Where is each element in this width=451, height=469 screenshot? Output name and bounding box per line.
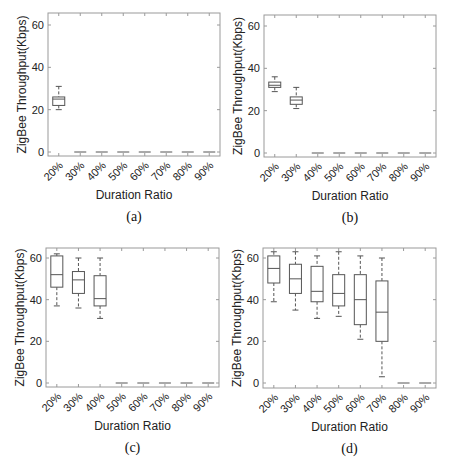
iqr-box [72, 272, 84, 294]
iqr-box [376, 281, 388, 341]
x-tick-label: 80% [386, 391, 410, 415]
y-tick-label: 60 [30, 252, 42, 264]
box-20pct [53, 86, 65, 109]
x-tick-label: 40% [300, 160, 324, 184]
x-tick-label: 20% [39, 390, 63, 414]
iqr-box [290, 97, 302, 104]
x-tick-label: 20% [41, 159, 65, 183]
y-tick-label: 0 [254, 147, 260, 159]
x-tick-label: 70% [364, 391, 388, 415]
box-70pct [376, 258, 388, 377]
x-tick-label: 90% [408, 391, 432, 415]
y-tick-label: 40 [30, 294, 42, 306]
y-tick-label: 40 [32, 61, 44, 73]
box-20pct [269, 77, 281, 92]
x-tick-label: 40% [84, 159, 108, 183]
x-axis-label: Duration Ratio [96, 188, 173, 202]
y-axis-label: ZigBee Throughput(Kbps) [231, 17, 245, 155]
x-tick-label: 30% [61, 390, 85, 414]
x-tick-label: 50% [321, 391, 345, 415]
box-30pct [289, 252, 301, 310]
x-tick-label: 60% [127, 159, 151, 183]
x-tick-label: 90% [192, 159, 216, 183]
x-tick-label: 60% [343, 160, 367, 184]
x-tick-label: 80% [169, 390, 193, 414]
subplot-d: 020406020%30%40%50%60%70%80%90%Duration … [230, 248, 436, 457]
box-30pct [290, 87, 302, 108]
box-20pct [51, 254, 63, 306]
x-tick-label: 90% [408, 160, 432, 184]
y-axis-label: ZigBee Throughput(Kbps) [13, 249, 27, 387]
y-tick-label: 0 [38, 146, 44, 158]
iqr-box [268, 256, 280, 283]
box-60pct [354, 256, 366, 339]
box-30pct [72, 258, 84, 308]
x-tick-label: 80% [386, 160, 410, 184]
plot-frame [264, 15, 436, 157]
x-tick-label: 30% [278, 391, 302, 415]
box-20pct [268, 252, 280, 302]
x-tick-label: 20% [257, 160, 281, 184]
y-tick-label: 20 [30, 335, 42, 347]
box-40pct [94, 258, 106, 318]
x-tick-label: 60% [126, 390, 150, 414]
figure: 020406020%30%40%50%60%70%80%90%Duration … [0, 0, 451, 469]
subfigure-caption: (b) [342, 210, 359, 226]
x-tick-label: 50% [322, 160, 346, 184]
box-50pct [333, 252, 345, 317]
subplot-c: 020406020%30%40%50%60%70%80%90%Duration … [13, 248, 219, 456]
x-axis-label: Duration Ratio [312, 189, 389, 203]
x-tick-label: 50% [106, 159, 130, 183]
iqr-box [94, 276, 106, 306]
plot-frame [48, 13, 220, 156]
x-tick-label: 40% [299, 391, 323, 415]
box-40pct [311, 256, 323, 318]
y-tick-label: 20 [248, 105, 260, 117]
y-tick-label: 60 [248, 20, 260, 32]
x-tick-label: 60% [343, 391, 367, 415]
iqr-box [269, 82, 281, 87]
subfigure-caption: (c) [125, 440, 141, 456]
subplot-a: 020406020%30%40%50%60%70%80%90%Duration … [15, 13, 220, 225]
x-tick-label: 40% [82, 390, 106, 414]
x-axis-label: Duration Ratio [94, 419, 171, 433]
x-axis-label: Duration Ratio [311, 420, 388, 434]
iqr-box [51, 256, 63, 287]
plot-frame [46, 248, 219, 387]
y-tick-label: 60 [32, 19, 44, 31]
iqr-box [333, 275, 345, 306]
x-tick-label: 70% [365, 160, 389, 184]
x-tick-label: 80% [170, 159, 194, 183]
x-tick-label: 30% [63, 159, 87, 183]
x-tick-label: 70% [147, 390, 171, 414]
y-tick-label: 40 [247, 294, 259, 306]
y-tick-label: 20 [32, 104, 44, 116]
y-axis-label: ZigBee Throughput(Kbps) [15, 16, 29, 154]
subfigure-caption: (a) [126, 209, 142, 225]
x-tick-label: 30% [279, 160, 303, 184]
y-tick-label: 0 [253, 377, 259, 389]
y-tick-label: 40 [248, 62, 260, 74]
subfigure-caption: (d) [341, 441, 358, 457]
x-tick-label: 20% [256, 391, 280, 415]
x-tick-label: 70% [149, 159, 173, 183]
x-tick-label: 50% [104, 390, 128, 414]
y-tick-label: 60 [247, 252, 259, 264]
y-tick-label: 0 [36, 377, 42, 389]
iqr-box [53, 97, 65, 105]
subplot-b: 020406020%30%40%50%60%70%80%90%Duration … [231, 15, 436, 226]
y-tick-label: 20 [247, 335, 259, 347]
y-axis-label: ZigBee Throughput(Kbps) [230, 249, 244, 387]
iqr-box [311, 266, 323, 301]
x-tick-label: 90% [191, 390, 215, 414]
